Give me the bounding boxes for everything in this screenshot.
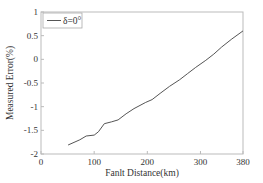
- legend-label: δ=0°: [63, 16, 82, 26]
- y-tick-label: 0: [34, 54, 39, 64]
- y-tick-label: -1: [31, 102, 39, 112]
- y-axis-label: Measured Error(%): [5, 46, 16, 120]
- x-tick-label: 200: [141, 157, 155, 167]
- x-tick-label: 300: [194, 157, 208, 167]
- line-chart: -2-1.5-1-0.500.51 0100200300380 δ=0° Fan…: [0, 0, 263, 183]
- y-tick-label: 1: [34, 7, 39, 17]
- legend: δ=0°: [43, 13, 82, 28]
- x-tick-label: 0: [39, 157, 44, 167]
- y-tick-label: -2: [31, 149, 39, 159]
- y-tick-label: 0.5: [27, 31, 39, 41]
- y-tick-label: -1.5: [24, 125, 39, 135]
- x-tick-label: 380: [236, 157, 250, 167]
- x-tick-label: 100: [87, 157, 101, 167]
- x-axis-label: Fanlt Distance(km): [105, 168, 179, 179]
- plot-area: [41, 12, 243, 154]
- y-tick-label: -0.5: [24, 78, 39, 88]
